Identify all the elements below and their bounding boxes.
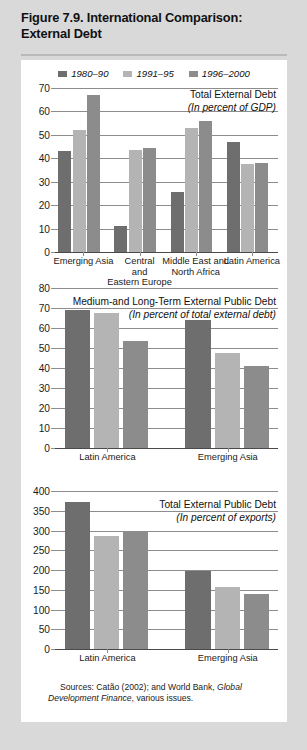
x-axis-category-line: Latin America (79, 653, 135, 664)
bar (87, 95, 100, 252)
y-tick-mark (51, 111, 55, 112)
y-tick-mark (51, 135, 55, 136)
y-tick-mark (51, 491, 55, 492)
plot-area-chart2: 01020304050607080Medium-and Long-Term Ex… (55, 288, 278, 448)
y-axis-tick-label: 30 (39, 383, 50, 394)
y-axis-tick-label: 60 (39, 323, 50, 334)
x-axis-category-label: Middle East andNorth Africa (162, 256, 229, 277)
y-axis-tick-label: 50 (39, 343, 50, 354)
y-tick-mark (51, 229, 55, 230)
bar (65, 502, 90, 649)
gridline (55, 649, 278, 650)
y-tick-mark (51, 388, 55, 389)
chart-total-external-public-debt: 050100150200250300350400Total External P… (21, 485, 287, 675)
y-tick-mark (51, 182, 55, 183)
y-axis-tick-label: 20 (39, 200, 50, 211)
x-axis-category-line: Latin America (224, 256, 280, 267)
chart-title: Medium-and Long-Term External Public Deb… (73, 296, 276, 309)
y-axis-tick-label: 70 (39, 303, 50, 314)
y-axis-tick-label: 60 (39, 106, 50, 117)
x-axis-category-label: Emerging Asia (53, 256, 113, 267)
y-axis-tick-label: 80 (39, 283, 50, 294)
y-tick-mark (51, 629, 55, 630)
gridline (55, 288, 278, 289)
y-tick-mark (51, 158, 55, 159)
bar (215, 587, 240, 649)
y-axis-tick-label: 40 (39, 363, 50, 374)
figure-title-block: Figure 7.9. International Comparison: Ex… (21, 10, 289, 41)
chart-subtitle: (In percent of exports) (159, 512, 276, 525)
source-publication-title: Global Development Finance (48, 682, 242, 703)
x-axis-category-line: Middle East and (162, 256, 229, 267)
bar (185, 128, 198, 252)
page-title: Figure 7.9. International Comparison: Ex… (21, 10, 289, 41)
y-tick-mark (51, 428, 55, 429)
y-tick-mark (51, 448, 55, 449)
x-axis-category-label: Latin America (79, 452, 135, 463)
x-axis-category-line: North Africa (162, 267, 229, 278)
y-tick-mark (51, 408, 55, 409)
bar (94, 536, 119, 649)
x-axis-category-line: Emerging Asia (198, 653, 258, 664)
bar (123, 341, 148, 448)
title-divider (21, 54, 287, 56)
bar (58, 151, 71, 252)
y-tick-mark (51, 308, 55, 309)
bar (65, 310, 90, 448)
figure-card: Figure 7.9. International Comparison: Ex… (0, 0, 307, 750)
y-tick-mark (51, 511, 55, 512)
x-axis-category-label: Emerging Asia (198, 452, 258, 463)
y-axis-tick-label: 40 (39, 153, 50, 164)
x-axis-category-line: Latin America (79, 452, 135, 463)
y-tick-mark (51, 550, 55, 551)
legend-swatch-icon (189, 71, 198, 77)
y-axis-tick-label: 10 (39, 423, 50, 434)
chart-title-annotation: Total External Public Debt(In percent of… (159, 499, 276, 524)
bar (227, 142, 240, 252)
y-axis-tick-label: 350 (33, 505, 50, 516)
y-axis-tick-label: 150 (33, 584, 50, 595)
y-tick-mark (51, 205, 55, 206)
bar (244, 366, 269, 448)
y-tick-mark (51, 88, 55, 89)
charts-panel: 1980–901991–951996–2000 010203040506070T… (21, 60, 287, 722)
legend-swatch-icon (58, 71, 67, 77)
y-axis-tick-label: 250 (33, 545, 50, 556)
legend-label: 1996–2000 (202, 68, 250, 79)
legend-item: 1996–2000 (189, 68, 250, 79)
y-tick-mark (51, 252, 55, 253)
x-axis-category-line: Emerging Asia (198, 452, 258, 463)
y-tick-mark (51, 531, 55, 532)
y-axis-tick-label: 200 (33, 565, 50, 576)
y-tick-mark (51, 649, 55, 650)
bar (171, 192, 184, 252)
bar (241, 164, 254, 252)
y-axis-tick-label: 400 (33, 486, 50, 497)
y-axis-tick-label: 50 (39, 624, 50, 635)
chart-medium-long-term-external-public-debt: 01020304050607080Medium-and Long-Term Ex… (21, 282, 287, 477)
source-note: Sources: Catão (2002); and World Bank, G… (48, 682, 282, 704)
y-axis-tick-label: 100 (33, 604, 50, 615)
bar (185, 320, 210, 448)
y-axis-tick-label: 50 (39, 129, 50, 140)
legend-item: 1980–90 (58, 68, 108, 79)
y-tick-mark (51, 590, 55, 591)
y-axis-tick-label: 0 (44, 247, 50, 258)
x-axis-category-label: Emerging Asia (198, 653, 258, 664)
bar (143, 148, 156, 252)
y-axis-tick-label: 70 (39, 83, 50, 94)
y-axis-tick-label: 0 (44, 443, 50, 454)
plot-area-chart1: 010203040506070Total External Debt(In pe… (55, 88, 278, 252)
y-tick-mark (51, 328, 55, 329)
chart-total-external-debt: 1980–901991–951996–2000 010203040506070T… (21, 68, 287, 275)
chart-legend: 1980–901991–951996–2000 (21, 68, 287, 79)
y-tick-mark (51, 610, 55, 611)
gridline (55, 252, 278, 253)
chart-title: Total External Debt (188, 89, 276, 102)
legend-label: 1991–95 (136, 68, 173, 79)
y-axis-tick-label: 30 (39, 176, 50, 187)
legend-label: 1980–90 (71, 68, 108, 79)
y-axis-tick-label: 300 (33, 525, 50, 536)
chart-title-annotation: Total External Debt(In percent of GDP) (188, 89, 276, 114)
x-axis-category-line: Emerging Asia (53, 256, 113, 267)
